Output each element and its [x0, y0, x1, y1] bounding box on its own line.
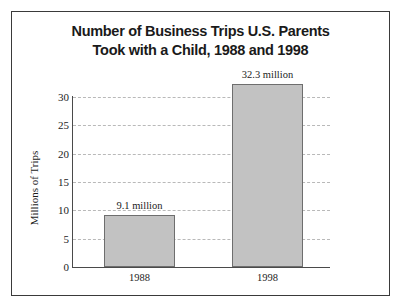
- y-tick-label: 5: [29, 233, 69, 245]
- bar-value-label: 32.3 million: [210, 69, 325, 80]
- plot-area: [73, 97, 330, 267]
- y-axis-line: [72, 96, 73, 268]
- bar: [232, 84, 303, 267]
- x-axis-line: [72, 267, 330, 268]
- y-tick-label: 20: [29, 148, 69, 160]
- bar-value-label: 9.1 million: [82, 200, 197, 211]
- y-tick-label: 0: [29, 261, 69, 273]
- x-tick-label: 1988: [79, 272, 200, 283]
- y-tick-label: 25: [29, 119, 69, 131]
- figure: Number of Business Trips U.S. Parents To…: [0, 0, 402, 308]
- y-tick-label: 30: [29, 91, 69, 103]
- y-tick-label: 10: [29, 204, 69, 216]
- y-axis-tick-labels: 051015202530: [22, 0, 69, 308]
- y-tick-label: 15: [29, 176, 69, 188]
- x-tick-label: 1998: [207, 272, 328, 283]
- bar: [104, 215, 175, 267]
